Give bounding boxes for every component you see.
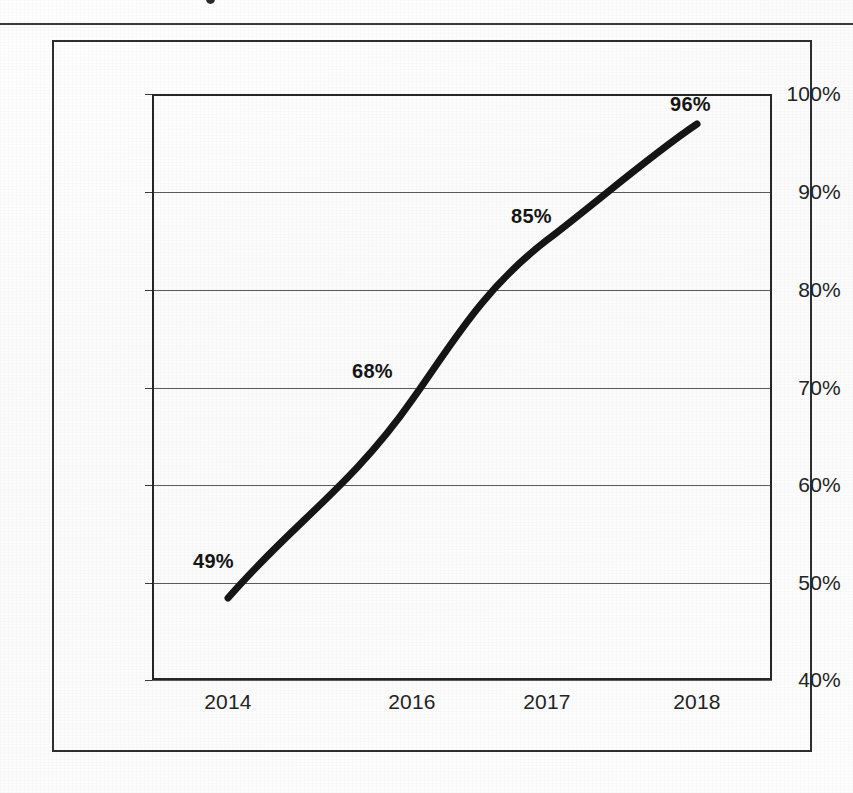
x-axis-label-2018: 2018 (637, 690, 757, 714)
y-tick-mark-80 (145, 290, 152, 291)
y-tick-mark-70 (145, 388, 152, 389)
y-tick-mark-100 (145, 94, 152, 95)
data-label-2018: 96% (670, 93, 711, 116)
x-axis-label-2016: 2016 (352, 690, 472, 714)
x-axis-label-2014: 2014 (168, 690, 288, 714)
y-tick-mark-90 (145, 192, 152, 193)
x-axis-label-2017: 2017 (487, 690, 607, 714)
data-label-2017: 85% (511, 205, 552, 228)
y-tick-mark-40 (145, 680, 152, 681)
y-tick-mark-60 (145, 485, 152, 486)
data-series-line (152, 94, 772, 680)
y-tick-mark-50 (145, 583, 152, 584)
data-label-2014: 49% (193, 550, 234, 573)
gridline-40 (152, 680, 772, 681)
data-label-2016: 68% (352, 360, 393, 383)
line-chart: 100% 90% 80% 70% 60% 50% 40% 49% 68% 85%… (0, 0, 853, 793)
